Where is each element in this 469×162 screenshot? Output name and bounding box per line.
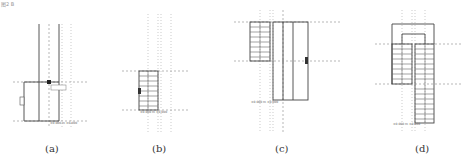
svg-text:±0.000 m ±0.000: ±0.000 m ±0.000	[393, 122, 420, 126]
staircase-plan-figure: ±0.000 m ±0.000 ±0.000 m ±0.000	[0, 0, 469, 162]
caption-d: (d)	[415, 143, 429, 154]
caption-b: (b)	[152, 143, 166, 154]
svg-text:±0.000 m ±0.000: ±0.000 m ±0.000	[140, 110, 167, 114]
caption-c: (c)	[275, 143, 288, 154]
svg-text:±0.000 m ±0.000: ±0.000 m ±0.000	[50, 121, 77, 125]
panel-c-drawing: ±0.000 m ±0.000	[234, 10, 340, 132]
panel-b-drawing: ±0.000 m ±0.000	[122, 14, 190, 132]
panel-a-drawing: ±0.000 m ±0.000	[13, 24, 88, 128]
caption-a: (a)	[45, 143, 59, 154]
panel-d-drawing: ±0.000 m ±0.000	[375, 10, 462, 132]
svg-text:±0.000 m ±0.000: ±0.000 m ±0.000	[251, 100, 278, 104]
